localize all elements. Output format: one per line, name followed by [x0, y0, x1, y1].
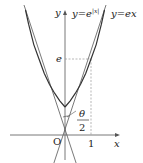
diagram: y y=e|x| y=ex e O 1 x θ 2	[0, 0, 143, 163]
curve-label-exp: y=e|x|	[71, 7, 99, 19]
y-tick-label-e: e	[56, 53, 62, 64]
angle-pointer	[67, 111, 76, 117]
angle-numerator: θ	[79, 108, 85, 119]
angle-denominator: 2	[79, 122, 85, 133]
x-tick-label-1: 1	[88, 138, 94, 149]
y-axis-label: y	[54, 7, 61, 18]
x-axis-label: x	[114, 138, 120, 149]
y-axis-arrow-icon	[63, 10, 67, 15]
origin-label: O	[53, 136, 61, 147]
curve-label-ex: y=ex	[110, 8, 137, 19]
x-axis-arrow-icon	[115, 133, 120, 137]
